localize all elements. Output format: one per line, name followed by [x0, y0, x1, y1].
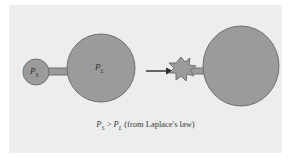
collapsed-alveolus-star-icon: [169, 57, 196, 81]
enlarged-alveolus-blob-icon: [203, 26, 279, 106]
large-alveolus-label-subscript: L: [101, 68, 104, 74]
large-alveolus-label: PL: [95, 63, 104, 74]
small-alveolus-label-subscript: S: [36, 72, 39, 78]
caption-operator: >: [105, 119, 114, 129]
small-alveolus-label: PS: [30, 67, 39, 78]
figure-root: PS PL PS > PL (from Laplace's law): [0, 0, 291, 160]
caption-note: (from Laplace's law): [122, 119, 195, 129]
figure-graphics: [0, 0, 291, 160]
figure-caption: PS > PL (from Laplace's law): [0, 120, 291, 131]
